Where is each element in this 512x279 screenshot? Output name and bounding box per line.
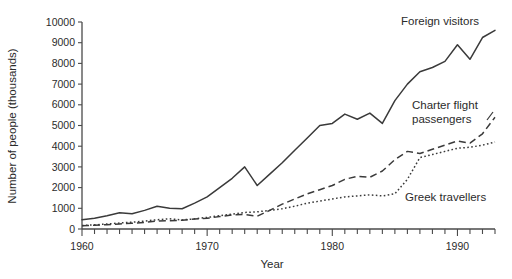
- y-axis: 0100020003000400050006000700080009000100…: [46, 16, 82, 235]
- charter-leader-line: [487, 112, 493, 120]
- x-tick-label: 1960: [70, 240, 94, 252]
- series-path-charter-flight-passengers: [82, 117, 495, 225]
- series-label-greek-travellers: Greek travellers: [405, 191, 486, 203]
- y-tick-label: 2000: [52, 181, 76, 193]
- y-axis-title: Number of people (thousands): [6, 48, 18, 204]
- y-tick-label: 10000: [46, 16, 75, 28]
- series-path-greek-travellers: [82, 142, 495, 225]
- y-tick-label: 1000: [52, 202, 76, 214]
- series-label-charter-passengers: passengers: [412, 113, 472, 125]
- y-tick-label: 0: [69, 223, 75, 235]
- x-tick-label: 1990: [446, 240, 470, 252]
- y-tick-label: 8000: [52, 57, 76, 69]
- x-tick-label: 1980: [321, 240, 345, 252]
- series-label-charter-flight: Charter flight: [412, 99, 479, 111]
- chart-canvas: 0100020003000400050006000700080009000100…: [0, 0, 512, 279]
- line-chart: 0100020003000400050006000700080009000100…: [0, 0, 512, 279]
- series-label-foreign-visitors: Foreign visitors: [401, 15, 479, 27]
- y-tick-label: 7000: [52, 78, 76, 90]
- y-tick-label: 9000: [52, 36, 76, 48]
- y-tick-label: 4000: [52, 140, 76, 152]
- y-tick-label: 6000: [52, 98, 76, 110]
- y-tick-label: 3000: [52, 161, 76, 173]
- x-axis: 1960197019801990: [70, 229, 495, 252]
- x-axis-title: Year: [260, 258, 283, 270]
- y-tick-label: 5000: [52, 119, 76, 131]
- x-tick-label: 1970: [195, 240, 219, 252]
